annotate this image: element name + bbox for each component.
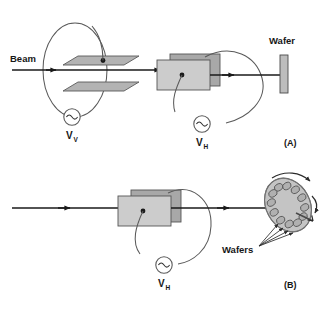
horizontal-source-label-b: V [158,278,165,289]
wafer-label: Wafer [269,35,295,46]
horizontal-source-subscript-b: H [166,284,171,291]
horizontal-source-subscript-a: H [204,143,209,150]
panel-a-id: (A) [284,138,297,148]
implanter-scanning-diagram: V V Beam V H Wafer (A) [0,0,328,309]
vertical-source-label: V [66,130,73,141]
diagram-root: V V Beam V H Wafer (A) [0,0,328,309]
panel-b-id: (B) [284,280,297,290]
wafers-label: Wafers [222,244,253,255]
target-wafer [280,55,288,93]
beam-label: Beam [10,53,36,64]
vertical-source-subscript: V [74,136,79,143]
horizontal-source-label-a: V [196,137,203,148]
